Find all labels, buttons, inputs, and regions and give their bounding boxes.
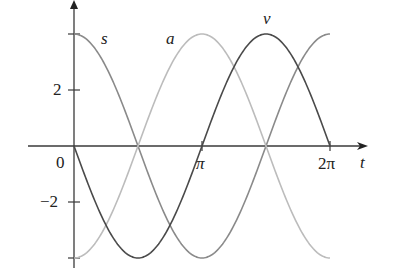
y-tick-label-neg2: −2 [40, 193, 58, 210]
y-tick-label-2: 2 [53, 81, 62, 98]
chart-canvas [0, 0, 399, 270]
curve-label-a: a [166, 30, 175, 47]
curve-label-v: v [263, 10, 271, 27]
origin-label: 0 [56, 154, 65, 171]
x-tick-label-2pi: 2π [318, 155, 335, 172]
x-axis-label-t: t [360, 154, 365, 171]
x-tick-label-pi: π [196, 155, 205, 172]
curve-label-s: s [101, 30, 108, 47]
y-axis-arrow-icon [70, 0, 78, 9]
